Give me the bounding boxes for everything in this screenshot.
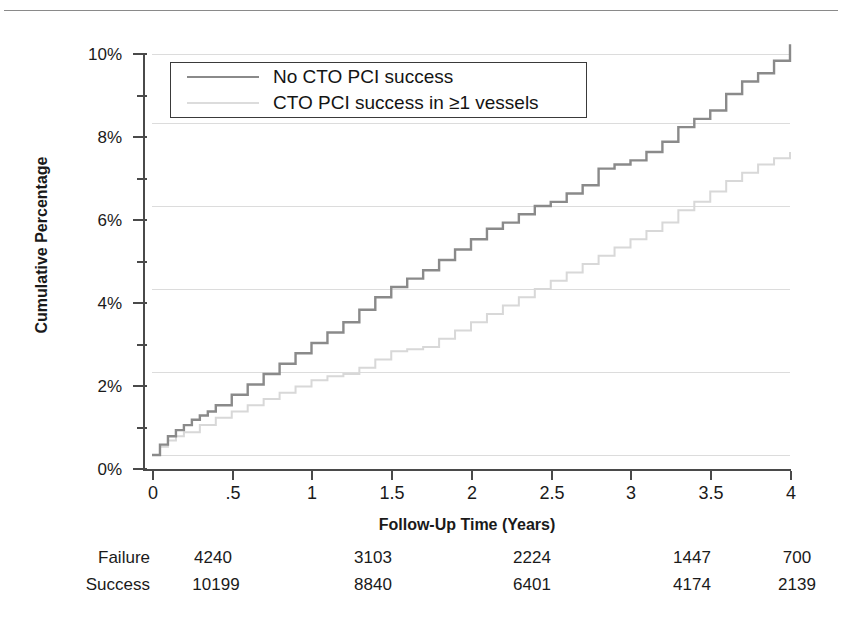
- x-tick-2: [471, 471, 473, 480]
- y-tick-8: [133, 136, 147, 138]
- y-tick-1: [137, 427, 147, 429]
- legend-label-cto-pci-success: CTO PCI success in ≥1 vessels: [273, 92, 539, 114]
- y-tick-10: [133, 53, 147, 55]
- y-tick-label-10: 10%: [52, 46, 122, 63]
- x-tick-4: [790, 471, 792, 480]
- risk-cell-failure-2: 2224: [477, 548, 587, 568]
- x-tick-label-3: 3: [601, 484, 661, 502]
- x-tick-label-2.5: 2.5: [522, 484, 582, 502]
- x-tick-0.5: [232, 471, 234, 480]
- x-tick-label-2: 2: [442, 484, 502, 502]
- y-tick-2: [133, 385, 147, 387]
- y-tick-9: [137, 95, 147, 97]
- x-tick-label-1: 1: [282, 484, 342, 502]
- risk-cell-success-3: 4174: [637, 575, 747, 595]
- legend-item-no-cto-pci-success: No CTO PCI success: [171, 63, 453, 91]
- risk-row-failure: Failure 4240 3103 2224 1447 700: [0, 548, 842, 575]
- x-tick-1.5: [391, 471, 393, 480]
- legend-item-cto-pci-success: CTO PCI success in ≥1 vessels: [171, 89, 539, 117]
- risk-cell-success-1: 8840: [318, 575, 428, 595]
- x-tick-label-0.5: .5: [203, 484, 263, 502]
- y-tick-7: [137, 178, 147, 180]
- y-tick-3: [137, 344, 147, 346]
- x-tick-label-0: 0: [123, 484, 183, 502]
- legend-label-no-cto-pci-success: No CTO PCI success: [273, 66, 453, 88]
- risk-cell-success-2: 6401: [477, 575, 587, 595]
- y-tick-label-4: 4%: [52, 295, 122, 312]
- legend-swatch-no-cto-pci-success: [187, 76, 259, 78]
- y-tick-label-2: 2%: [52, 378, 122, 395]
- x-axis-line: [143, 469, 791, 471]
- risk-row-success: Success 10199 8840 6401 4174 2139: [0, 575, 842, 602]
- legend: No CTO PCI success CTO PCI success in ≥1…: [170, 62, 587, 118]
- risk-cell-failure-1: 3103: [318, 548, 428, 568]
- risk-cell-failure-0: 4240: [158, 548, 268, 568]
- x-tick-label-4: 4: [761, 484, 821, 502]
- y-tick-label-6: 6%: [52, 212, 122, 229]
- y-tick-label-8: 8%: [52, 129, 122, 146]
- x-tick-3: [630, 471, 632, 480]
- x-tick-label-1.5: 1.5: [362, 484, 422, 502]
- risk-row-label-failure: Failure: [20, 548, 150, 568]
- risk-cell-failure-3: 1447: [637, 548, 747, 568]
- y-tick-5: [137, 261, 147, 263]
- y-tick-0: [133, 468, 147, 470]
- legend-swatch-cto-pci-success: [187, 102, 259, 104]
- x-tick-label-3.5: 3.5: [681, 484, 741, 502]
- y-tick-6: [133, 219, 147, 221]
- survival-curve-figure: 10% 8% 6% 4% 2% 0% 0 .5 1 1.5 2 2.5 3 3.…: [0, 0, 842, 635]
- y-axis-title: Cumulative Percentage: [33, 35, 51, 455]
- risk-row-label-success: Success: [20, 575, 150, 595]
- curve-cto-pci-success: [152, 152, 790, 455]
- y-tick-4: [133, 302, 147, 304]
- risk-cell-success-4: 2139: [742, 575, 842, 595]
- x-axis-title: Follow-Up Time (Years): [143, 516, 791, 534]
- y-tick-label-0: 0%: [52, 461, 122, 478]
- risk-cell-failure-4: 700: [742, 548, 842, 568]
- x-tick-2.5: [551, 471, 553, 480]
- x-tick-1: [311, 471, 313, 480]
- risk-cell-success-0: 10199: [161, 575, 271, 595]
- x-tick-3.5: [710, 471, 712, 480]
- gridline-0pct: [152, 455, 790, 456]
- x-tick-0: [152, 471, 154, 480]
- numbers-at-risk-table: Failure 4240 3103 2224 1447 700 Success …: [0, 548, 842, 602]
